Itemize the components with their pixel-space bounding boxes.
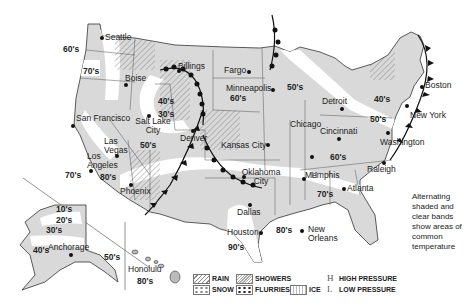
city-label-salt-lake-city: Salt Lake City — [133, 117, 173, 135]
city-label-fargo: Fargo — [224, 66, 246, 75]
legend-flurries-label: FLURRIES — [255, 286, 290, 293]
temp-label: 40's — [158, 97, 174, 106]
city-dot — [310, 155, 314, 159]
legend-low-pressure-label: LOW PRESSURE — [339, 286, 396, 293]
city-label-san-francisco: San Francisco — [76, 113, 130, 123]
city-label-denver: Denver — [180, 134, 207, 143]
city-label-boise: Boise — [125, 74, 146, 83]
city-dot — [342, 187, 346, 191]
temp-label: 40's — [374, 95, 390, 104]
city-label-houston: Houston — [227, 228, 259, 237]
temp-label: 50's — [140, 141, 156, 150]
city-dot — [71, 124, 75, 128]
high-pressure-marker: H — [311, 170, 318, 180]
temp-label: 50's — [370, 115, 386, 124]
temp-label: 80's — [276, 226, 292, 235]
low-pressure-symbol: L — [327, 284, 333, 294]
legend-showers-label: SHOWERS — [255, 275, 291, 282]
legend-high-pressure-label: HIGH PRESSURE — [339, 275, 397, 282]
temp-label: 60's — [63, 45, 79, 54]
rain-swatch — [193, 274, 210, 284]
temp-label: 90's — [228, 243, 244, 252]
city-dot — [337, 137, 341, 141]
legend-ice-label: ICE — [309, 286, 321, 293]
city-label-washington: Washington — [380, 138, 425, 147]
city-label-new-york: New York — [410, 111, 446, 120]
temp-label: 70's — [83, 67, 99, 76]
city-label-new-orleans: New Orleans — [308, 225, 348, 243]
city-label-atlanta: Atlanta — [347, 184, 373, 193]
temperature-band-note: Alternating shaded and clear bands show … — [412, 192, 468, 252]
snow-swatch — [193, 285, 210, 295]
city-dot — [124, 83, 128, 87]
city-label-raleigh: Raleigh — [367, 165, 396, 174]
temp-label: 40's — [33, 246, 49, 255]
temp-label: 50's — [104, 253, 120, 262]
temp-label: 50's — [287, 83, 303, 92]
city-dot — [405, 104, 409, 108]
city-label-boston: Boston — [425, 81, 451, 90]
city-label-billings: Billings — [178, 62, 205, 71]
city-label-oklahoma-city: Oklahoma City — [235, 168, 287, 186]
city-dot — [271, 88, 275, 92]
city-dot — [340, 107, 344, 111]
city-dot — [100, 36, 104, 40]
city-label-phoenix: Phoenix — [120, 187, 151, 196]
ice-swatch — [290, 285, 307, 295]
city-dot — [420, 85, 424, 89]
temp-label: 70's — [65, 171, 81, 180]
city-label-detroit: Detroit — [322, 97, 347, 106]
flurries-swatch — [236, 285, 253, 295]
city-label-anchorage: Anchorage — [48, 243, 89, 252]
legend-rain-label: RAIN — [212, 275, 229, 282]
temp-label: 30's — [158, 110, 174, 119]
city-dot — [300, 229, 304, 233]
high-pressure-symbol: H — [327, 273, 334, 283]
city-label-seattle: Seattle — [105, 33, 131, 42]
city-label-chicago: Chicago — [290, 120, 321, 129]
temp-label: 20's — [56, 216, 72, 225]
city-dot — [259, 231, 263, 235]
city-label-minneapolis: Minneapolis — [226, 84, 271, 93]
temp-label: 10's — [56, 205, 72, 214]
city-label-dallas: Dallas — [237, 208, 261, 217]
temp-label: 80's — [137, 277, 153, 286]
city-label-kansas-city: Kansas City — [221, 141, 266, 150]
city-label-los-angeles: Los Angeles — [87, 152, 121, 170]
city-dot — [266, 143, 270, 147]
city-label-honolulu: Honolulu — [128, 265, 162, 274]
city-label-cincinnati: Cincinnati — [320, 127, 357, 136]
city-dot — [69, 253, 73, 257]
legend-snow-label: SNOW — [212, 286, 234, 293]
temp-label: 60's — [230, 94, 246, 103]
temp-label: 60's — [330, 153, 346, 162]
showers-swatch — [236, 274, 253, 284]
temp-label: 70's — [317, 190, 333, 199]
city-dot — [247, 70, 251, 74]
city-dot — [386, 131, 390, 135]
temp-label: 80's — [100, 173, 116, 182]
temp-label: 30's — [46, 226, 62, 235]
